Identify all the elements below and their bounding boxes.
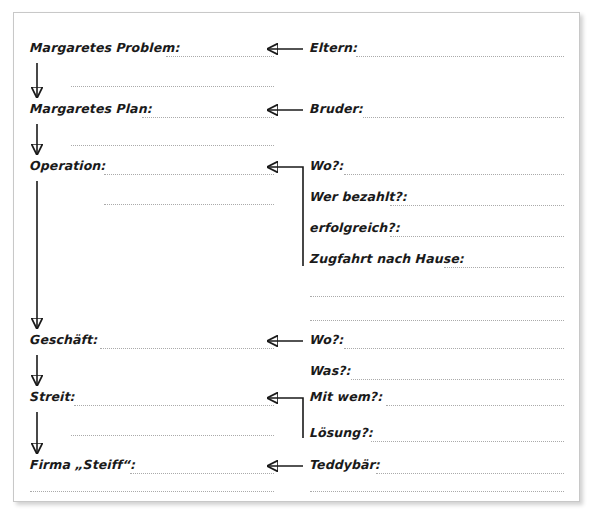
answer-line-teddybaer[interactable]: [376, 473, 564, 474]
right-item-label-eltern: Eltern:: [310, 42, 359, 55]
worksheet-canvas: Margaretes Problem: Margaretes Plan: Ope…: [14, 13, 579, 501]
answer-line-right-blank-2[interactable]: [310, 320, 564, 321]
right-item-label-bruder: Bruder:: [310, 103, 365, 116]
answer-line-erfolgreich[interactable]: [390, 236, 564, 237]
answer-line-zugfahrt-nach-hause[interactable]: [444, 267, 564, 268]
answer-line-geschaeft-wo[interactable]: [344, 348, 564, 349]
worksheet-frame: Margaretes Problem: Margaretes Plan: Ope…: [13, 12, 580, 502]
answer-line-operation-wo[interactable]: [344, 174, 564, 175]
right-item-label-wer-bezahlt: Wer bezahlt?:: [310, 191, 408, 204]
answer-line-bruder[interactable]: [363, 117, 564, 118]
answer-line-operation[interactable]: [104, 174, 274, 175]
right-item-label-teddybaer: Teddybär:: [310, 459, 382, 472]
left-item-label-geschaeft: Geschäft:: [30, 334, 99, 347]
answer-line-loesung[interactable]: [371, 441, 564, 442]
left-item-label-firma-steiff: Firma „Steiff“:: [30, 459, 137, 472]
left-item-label-margaretes-problem: Margaretes Problem:: [30, 42, 181, 55]
right-item-label-loesung: Lösung?:: [310, 427, 374, 440]
answer-line-firma-steiff[interactable]: [130, 473, 274, 474]
right-item-label-mit-wem: Mit wem?:: [310, 391, 384, 404]
left-item-label-streit: Streit:: [30, 391, 76, 404]
answer-line-streit-cont[interactable]: [71, 435, 274, 436]
right-item-label-erfolgreich: erfolgreich?:: [310, 222, 401, 235]
answer-line-margaretes-plan-cont[interactable]: [71, 145, 274, 146]
answer-line-was[interactable]: [351, 379, 564, 380]
answer-line-right-final[interactable]: [310, 491, 564, 492]
answer-line-right-blank-1[interactable]: [310, 296, 564, 297]
answer-line-margaretes-plan[interactable]: [142, 117, 274, 118]
right-item-label-geschaeft-wo: Wo?:: [310, 334, 345, 347]
answer-line-streit[interactable]: [74, 405, 274, 406]
right-item-label-was: Was?:: [310, 365, 352, 378]
bracket-arrow-operation-group: [268, 167, 303, 266]
left-item-label-operation: Operation:: [30, 160, 107, 173]
answer-line-left-final[interactable]: [30, 491, 274, 492]
answer-line-eltern[interactable]: [356, 56, 564, 57]
answer-line-mit-wem[interactable]: [386, 405, 564, 406]
answer-line-margaretes-problem-cont[interactable]: [71, 86, 274, 87]
left-item-label-margaretes-plan: Margaretes Plan:: [30, 103, 153, 116]
answer-line-wer-bezahlt[interactable]: [390, 205, 564, 206]
answer-line-operation-cont[interactable]: [104, 204, 274, 205]
answer-line-geschaeft[interactable]: [100, 348, 274, 349]
answer-line-margaretes-problem[interactable]: [166, 56, 274, 57]
right-item-label-operation-wo: Wo?:: [310, 160, 345, 173]
bracket-arrow-streit-group: [268, 398, 303, 438]
right-item-label-zugfahrt-nach-hause: Zugfahrt nach Hause:: [310, 253, 466, 266]
